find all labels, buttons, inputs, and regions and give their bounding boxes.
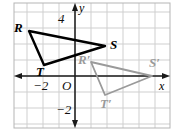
x-axis-label: x (159, 80, 164, 92)
y-tick-label-negative-2: −2 (56, 103, 71, 116)
vertex-label-t-prime: T′ (100, 97, 112, 110)
coordinate-figure: y x −2 O 4 −2 R S T R′ S′ T′ (0, 0, 176, 139)
vertex-label-s-prime: S′ (149, 56, 160, 69)
vertex-label-t: T (36, 65, 44, 78)
y-axis-label: y (79, 2, 84, 14)
vertex-label-r: R (14, 21, 23, 34)
x-tick-label-negative-2: −2 (33, 79, 48, 92)
y-tick-label-4: 4 (58, 12, 65, 25)
origin-label: O (62, 79, 71, 92)
vertex-label-s: S (110, 38, 117, 51)
vertex-label-r-prime: R′ (78, 53, 90, 66)
